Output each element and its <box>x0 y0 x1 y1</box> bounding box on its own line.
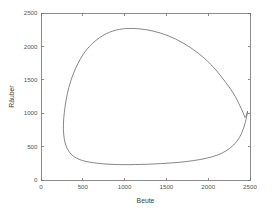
x-tick-label: 500 <box>78 183 89 190</box>
phase-portrait-chart: 05001000150020002500 0500100015002000250… <box>0 0 274 213</box>
y-tick-label: 500 <box>27 143 38 150</box>
x-tick-label: 2000 <box>201 183 215 190</box>
y-axis-tick-labels: 05001000150020002500 <box>24 9 38 183</box>
y-tick-label: 2000 <box>24 43 38 50</box>
x-tick-label: 1500 <box>160 183 174 190</box>
y-axis-label: Räuber <box>8 85 15 108</box>
y-tick-label: 2500 <box>24 9 38 16</box>
x-tick-label: 0 <box>39 183 43 190</box>
x-axis-label: Beute <box>137 197 155 204</box>
x-axis-tick-labels: 05001000150020002500 <box>39 183 257 190</box>
x-tick-label: 2500 <box>243 183 257 190</box>
figure-container: 05001000150020002500 0500100015002000250… <box>0 0 274 213</box>
x-tick-label: 1000 <box>118 183 132 190</box>
y-tick-label: 1000 <box>24 109 38 116</box>
y-tick-label: 0 <box>34 176 38 183</box>
y-tick-label: 1500 <box>24 76 38 83</box>
